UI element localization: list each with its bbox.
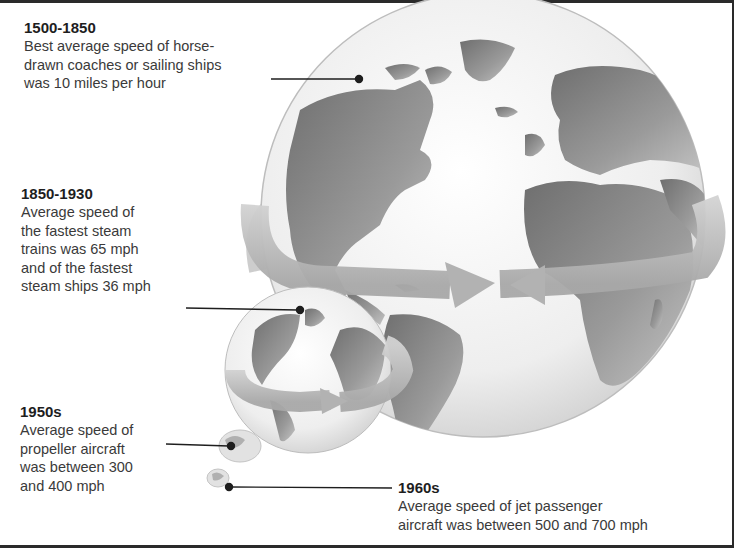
caption-text: aircraft was between 500 and 700 mph (398, 516, 648, 535)
caption-text: Best average speed of horse- (24, 37, 221, 56)
caption-text: Average speed of jet passenger (398, 497, 648, 516)
caption-1950s: 1950s Average speed of propeller aircraf… (20, 403, 133, 495)
era-heading: 1850-1930 (21, 185, 151, 203)
era-heading: 1500-1850 (24, 19, 221, 37)
era-heading: 1950s (20, 403, 133, 421)
leader-dot-icon (356, 76, 363, 83)
caption-text: trains was 65 mph (21, 240, 151, 259)
leader-dot-icon (226, 484, 233, 491)
tiny-globe (207, 469, 229, 487)
caption-text: was between 300 (20, 458, 133, 477)
caption-text: propeller aircraft (20, 440, 133, 459)
caption-text: the fastest steam (21, 222, 151, 241)
caption-text: drawn coaches or sailing ships (24, 56, 221, 75)
leader-dot-icon (297, 307, 304, 314)
caption-1850-1930: 1850-1930 Average speed of the fastest s… (21, 185, 151, 296)
caption-text: and of the fastest (21, 259, 151, 278)
caption-text: Average speed of (20, 421, 133, 440)
leader-dot-icon (228, 443, 235, 450)
caption-text: was 10 miles per hour (24, 74, 221, 93)
caption-text: and 400 mph (20, 477, 133, 496)
era-heading: 1960s (398, 479, 648, 497)
caption-text: Average speed of (21, 203, 151, 222)
caption-1960s: 1960s Average speed of jet passenger air… (398, 479, 648, 534)
caption-1500-1850: 1500-1850 Best average speed of horse- d… (24, 19, 221, 93)
leader-line-1960s (230, 487, 392, 488)
caption-text: steam ships 36 mph (21, 277, 151, 296)
